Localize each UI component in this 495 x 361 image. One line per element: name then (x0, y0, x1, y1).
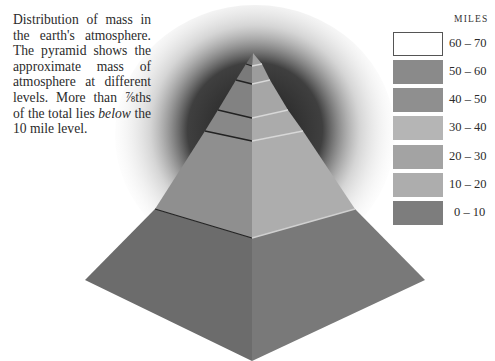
caption-emphasis: below (98, 106, 130, 121)
legend-label: 0 – 10 (454, 205, 485, 220)
legend-label: 60 – 70 (449, 36, 487, 51)
legend-label: 10 – 20 (449, 177, 487, 192)
legend-item-0-10: 0 – 10 (392, 201, 495, 226)
legend-swatch (393, 201, 443, 225)
legend-label: 50 – 60 (449, 64, 487, 79)
legend-swatch (393, 88, 443, 112)
legend-swatch (393, 32, 443, 56)
legend-item-20-30: 20 – 30 (392, 145, 495, 170)
legend-item-60-70: 60 – 70 (392, 32, 495, 57)
legend-item-40-50: 40 – 50 (392, 88, 495, 113)
legend-swatch (393, 173, 443, 197)
caption-text: Distribution of mass in the earth's atmo… (13, 12, 151, 137)
legend-label: 20 – 30 (449, 149, 487, 164)
legend-label: 30 – 40 (449, 120, 487, 135)
legend-label: 40 – 50 (449, 92, 487, 107)
legend-item-10-20: 10 – 20 (392, 173, 495, 198)
legend-item-50-60: 50 – 60 (392, 60, 495, 85)
caption-fraction: ⅞ (125, 90, 135, 105)
legend-title: MILES (454, 14, 489, 24)
legend-swatch (393, 145, 443, 169)
legend-item-30-40: 30 – 40 (392, 116, 495, 141)
legend-swatch (393, 116, 443, 140)
legend-swatch (393, 60, 443, 84)
